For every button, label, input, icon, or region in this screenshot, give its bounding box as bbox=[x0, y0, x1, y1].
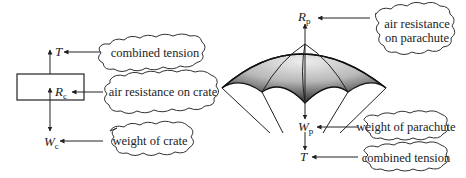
svg-text:combined tension: combined tension bbox=[111, 46, 200, 60]
suspension-line bbox=[222, 88, 270, 133]
svg-text:weight of crate: weight of crate bbox=[113, 134, 188, 148]
cloud-combined-tension-parachute: combined tension bbox=[362, 142, 451, 171]
free-body-diagram: T Rc Wc combined tension air resistance … bbox=[0, 0, 466, 178]
suspension-line bbox=[262, 92, 283, 133]
cloud-weight-crate: weight of crate bbox=[110, 121, 194, 155]
symbol-T-parachute: T bbox=[300, 149, 308, 164]
cloud-air-resistance-parachute: air resistance on parachute bbox=[375, 2, 454, 54]
symbol-T-crate: T bbox=[55, 44, 63, 59]
symbol-Wc: Wc bbox=[44, 134, 59, 151]
crate-diagram: T Rc Wc combined tension air resistance … bbox=[17, 34, 219, 156]
cloud-weight-parachute: weight of parachute bbox=[356, 111, 456, 140]
svg-text:air resistance: air resistance bbox=[384, 17, 450, 31]
svg-text:combined tension: combined tension bbox=[362, 151, 451, 165]
symbol-Wp: Wp bbox=[298, 119, 314, 136]
parachute-diagram: Rp Wp T air resistance on parachute weig… bbox=[222, 2, 456, 171]
cloud-combined-tension-crate: combined tension bbox=[98, 34, 205, 72]
svg-text:on parachute: on parachute bbox=[385, 31, 450, 45]
svg-text:air resistance on crate: air resistance on crate bbox=[109, 85, 218, 99]
symbol-Rp: Rp bbox=[297, 9, 311, 26]
svg-text:weight of parachute: weight of parachute bbox=[356, 120, 456, 134]
cloud-air-resistance-crate: air resistance on crate bbox=[104, 70, 218, 114]
